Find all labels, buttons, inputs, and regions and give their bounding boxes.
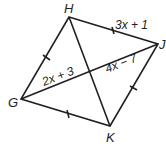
segment-center-j-expression: 4x − 7 xyxy=(103,50,140,75)
vertex-label-k: K xyxy=(106,130,116,145)
vertex-label-h: H xyxy=(64,1,74,16)
vertex-label-g: G xyxy=(8,95,18,110)
diagonal-gj xyxy=(21,44,158,99)
segment-g-center-expression: 2x + 3 xyxy=(39,64,76,89)
vertex-label-j: J xyxy=(158,37,166,52)
side-hj-expression: 3x + 1 xyxy=(115,18,148,32)
tick-mark-kg xyxy=(67,110,69,118)
rhombus-diagram: H J K G 3x + 1 2x + 3 4x − 7 xyxy=(0,0,166,148)
tick-mark-hj xyxy=(112,27,114,34)
